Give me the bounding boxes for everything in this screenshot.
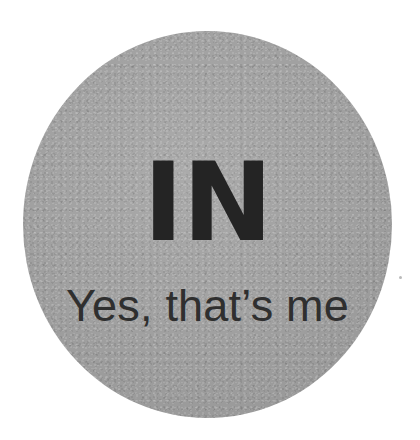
round-badge-sticker[interactable]: IN Yes, that’s me: [23, 31, 392, 418]
scan-speck-artifact: [399, 276, 402, 279]
scan-canvas: IN Yes, that’s me: [0, 0, 420, 440]
badge-headline: IN: [23, 149, 392, 257]
badge-subline: Yes, that’s me: [23, 283, 392, 328]
